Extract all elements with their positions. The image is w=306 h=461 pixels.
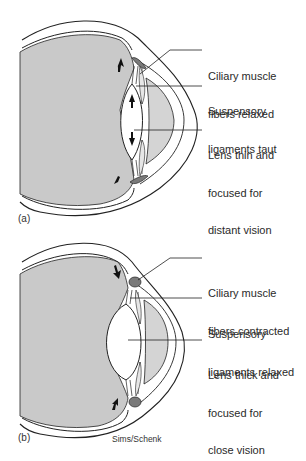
leader-ciliary-b	[138, 258, 202, 280]
label-line: focused for	[208, 187, 274, 200]
panel-a-eye	[20, 21, 202, 216]
ciliary-muscle-top	[129, 277, 141, 287]
panel-tag-b: (b)	[18, 432, 30, 443]
label-lens-b: Lens thick and focused for close vision	[208, 344, 279, 461]
figure-credit: Sims/Schenk	[112, 434, 162, 444]
ciliary-muscle-bottom	[129, 397, 141, 407]
label-line: Ciliary muscle	[208, 287, 289, 300]
panel-tag-a: (a)	[18, 213, 30, 224]
anterior-chamber	[144, 300, 168, 384]
label-line: Lens thin and	[208, 149, 274, 162]
label-line: close vision	[208, 444, 279, 457]
label-line: Suspensory	[208, 105, 276, 118]
panel-b-eye	[20, 243, 202, 437]
anterior-chamber	[146, 78, 174, 164]
label-line: Suspensory	[208, 328, 294, 341]
label-lens-a: Lens thin and focused for distant vision	[208, 124, 274, 249]
label-line: Lens thick and	[208, 369, 279, 382]
label-line: distant vision	[208, 224, 274, 237]
label-line: focused for	[208, 407, 279, 420]
leader-ciliary-a	[140, 50, 202, 74]
